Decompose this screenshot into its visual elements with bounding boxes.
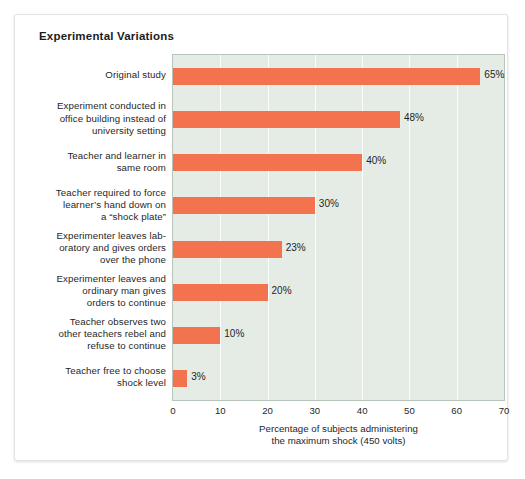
category-label: Original study: [28, 69, 166, 81]
bar-value-labels: 65%48%40%30%23%20%10%3%: [172, 54, 505, 401]
category-label: Teacher free to chooseshock level: [28, 365, 166, 389]
bar-value-label: 10%: [224, 328, 244, 339]
bar-value-label: 30%: [319, 198, 339, 209]
category-label-line: Original study: [28, 69, 166, 81]
x-tick-label: 0: [170, 405, 175, 416]
category-label-line: Teacher free to choose: [28, 365, 166, 377]
bar-value-label: 23%: [286, 242, 306, 253]
category-label-line: university setting: [28, 125, 166, 137]
category-label-line: Experimenter leaves lab-: [28, 230, 166, 242]
bar-value-label: 20%: [272, 285, 292, 296]
category-label-line: oratory and gives orders: [28, 242, 166, 254]
x-tick-label: 20: [262, 405, 273, 416]
category-label-line: learner’s hand down on: [28, 199, 166, 211]
x-axis-caption: Percentage of subjects administering the…: [172, 423, 505, 447]
category-label: Experimenter leaves andordinary man give…: [28, 273, 166, 310]
category-label-line: Teacher required to force: [28, 187, 166, 199]
category-label-line: office building instead of: [28, 113, 166, 125]
x-axis-caption-line-2: the maximum shock (450 volts): [172, 435, 505, 447]
category-label-line: Experimenter leaves and: [28, 273, 166, 285]
category-label-line: other teachers rebel and: [28, 328, 166, 340]
category-label: Experimenter leaves lab-oratory and give…: [28, 230, 166, 267]
x-tick-label: 60: [451, 405, 462, 416]
bar-value-label: 3%: [191, 371, 205, 382]
x-tick-label: 10: [215, 405, 226, 416]
x-axis: 010203040506070: [172, 403, 505, 421]
category-label-line: ordinary man gives: [28, 285, 166, 297]
category-label: Teacher observes twoother teachers rebel…: [28, 316, 166, 353]
x-axis-caption-line-1: Percentage of subjects administering: [172, 423, 505, 435]
category-axis-labels: Original studyExperiment conducted inoff…: [25, 54, 166, 401]
x-tick-label: 40: [357, 405, 368, 416]
bar-value-label: 65%: [484, 69, 504, 80]
category-label-line: shock level: [28, 377, 166, 389]
category-label-line: refuse to continue: [28, 340, 166, 352]
x-tick-label: 70: [499, 405, 510, 416]
category-label-line: a “shock plate”: [28, 211, 166, 223]
chart-area: Original studyExperiment conducted inoff…: [25, 40, 499, 452]
x-tick-label: 50: [404, 405, 415, 416]
category-label-line: Teacher and learner in: [28, 150, 166, 162]
x-tick-label: 30: [310, 405, 321, 416]
bar-value-label: 48%: [404, 112, 424, 123]
category-label-line: over the phone: [28, 254, 166, 266]
category-label-line: same room: [28, 162, 166, 174]
category-label: Teacher required to forcelearner’s hand …: [28, 187, 166, 224]
category-label-line: Teacher observes two: [28, 316, 166, 328]
category-label-line: Experiment conducted in: [28, 100, 166, 112]
category-label: Experiment conducted inoffice building i…: [28, 100, 166, 137]
category-label: Teacher and learner insame room: [28, 150, 166, 174]
figure-card: Experimental Variations Original studyEx…: [14, 14, 508, 461]
category-label-line: orders to continue: [28, 297, 166, 309]
bar-value-label: 40%: [366, 155, 386, 166]
